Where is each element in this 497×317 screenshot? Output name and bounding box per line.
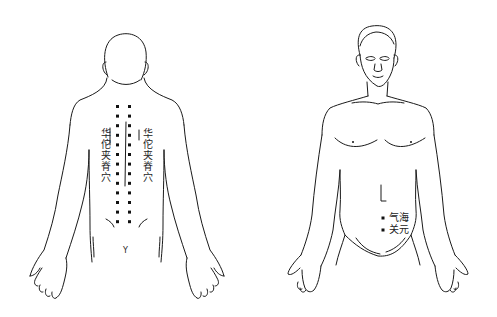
front-head	[358, 26, 396, 58]
qihai-point	[382, 217, 385, 220]
back-head	[105, 34, 147, 80]
illustration-canvas: Y	[0, 0, 497, 317]
guanyuan-label: 关元	[389, 224, 409, 235]
huatuo-jiaji-points	[116, 105, 131, 223]
right-huatuo-label: 华佗夹脊穴	[141, 128, 152, 183]
front-figure	[288, 26, 468, 293]
qihai-label: 气海	[389, 212, 409, 223]
back-figure	[30, 34, 224, 299]
sacrum-mark: Y	[122, 246, 128, 255]
guanyuan-point	[382, 229, 385, 232]
left-huatuo-label: 华佗夹脊穴	[99, 128, 110, 183]
front-acupoints	[382, 217, 385, 232]
